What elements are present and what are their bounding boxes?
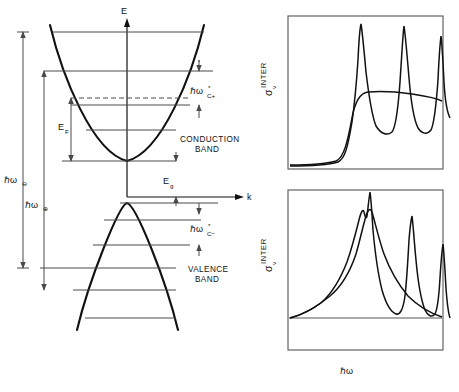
svg-text:E: E <box>58 122 64 132</box>
svg-text:ℏω: ℏω <box>25 200 38 210</box>
cyclotron-plus-measure-upper <box>196 60 201 72</box>
svg-text:*: * <box>208 84 211 91</box>
upper-y-axis-label: σ ν INTER <box>259 62 277 96</box>
figure-canvas: E k <box>0 0 459 392</box>
svg-text:⊖: ⊖ <box>22 180 27 187</box>
cyclotron-minus-measure-upper <box>196 203 201 215</box>
valence-band-curve <box>77 203 178 330</box>
svg-text:E: E <box>163 176 169 186</box>
gap-energy-label: E g <box>163 176 174 189</box>
svg-text:⊕: ⊕ <box>43 205 48 212</box>
cyclotron-minus-label: ℏω * C− <box>190 222 215 237</box>
svg-text:ν: ν <box>270 262 277 265</box>
svg-text:σ: σ <box>262 265 274 272</box>
valence-landau-levels <box>40 203 218 318</box>
svg-text:ℏω: ℏω <box>4 175 17 185</box>
figure-root: E k <box>0 0 459 392</box>
momentum-axis <box>127 194 244 200</box>
momentum-axis-label: k <box>247 192 252 202</box>
svg-text:ν: ν <box>270 86 277 89</box>
energy-axis-label: E <box>121 6 127 16</box>
photon-minus-measure <box>17 31 29 269</box>
photon-plus-measure <box>41 70 46 291</box>
valence-band-label: VALENCE BAND <box>188 265 229 284</box>
upper-resonance-trace <box>290 24 450 166</box>
lower-broad-resonance-trace <box>290 209 442 318</box>
fermi-energy-measure <box>68 97 74 162</box>
upper-conductivity-panel: σ ν INTER <box>259 16 450 169</box>
fermi-energy-label: E F <box>58 122 69 135</box>
svg-text:BAND: BAND <box>195 275 219 284</box>
cyclotron-plus-label: ℏω * C+ <box>190 84 215 99</box>
photon-plus-label: ℏω ⊕ <box>25 200 48 212</box>
svg-text:σ: σ <box>262 89 274 96</box>
svg-text:C+: C+ <box>207 92 215 99</box>
gap-energy-measure <box>173 152 178 206</box>
svg-text:INTER: INTER <box>259 238 268 264</box>
svg-text:VALENCE: VALENCE <box>188 265 229 274</box>
lower-x-axis-label: ℏω <box>340 366 353 376</box>
cyclotron-minus-measure-lower <box>196 244 201 256</box>
photon-minus-label: ℏω ⊖ <box>4 175 27 187</box>
svg-text:*: * <box>208 222 211 229</box>
conduction-band-label: CONDUCTION BAND <box>180 135 240 154</box>
upper-step-edge-trace <box>290 92 442 165</box>
svg-text:CONDUCTION: CONDUCTION <box>180 135 240 144</box>
svg-text:C−: C− <box>207 230 215 237</box>
svg-text:g: g <box>170 182 174 189</box>
lower-y-axis-label: σ ν INTER <box>259 238 277 272</box>
lower-conductivity-panel: σ ν INTER ℏω <box>259 190 450 376</box>
svg-text:BAND: BAND <box>195 145 219 154</box>
svg-text:ℏω: ℏω <box>190 86 203 96</box>
svg-text:F: F <box>65 128 69 135</box>
svg-text:ℏω: ℏω <box>190 224 203 234</box>
cyclotron-plus-measure-lower <box>196 104 201 118</box>
energy-axis <box>124 18 130 197</box>
left-panel-band-diagram: E k <box>4 6 252 330</box>
svg-text:INTER: INTER <box>259 62 268 88</box>
lower-plot-frame <box>288 190 443 350</box>
lower-resonance-trace <box>290 192 450 318</box>
